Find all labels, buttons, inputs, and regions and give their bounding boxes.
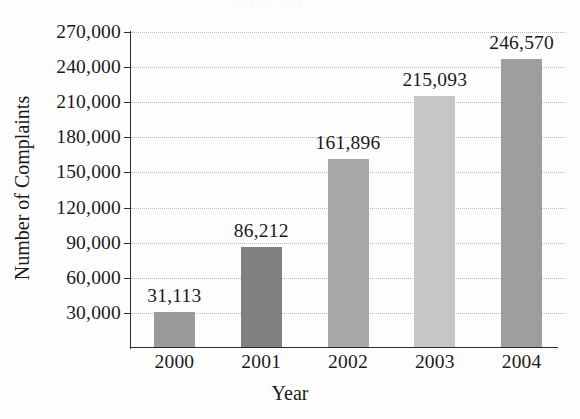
bar: [501, 59, 542, 348]
cropped-title-remnant: · · · · · · · ·: [230, 0, 430, 7]
y-axis-line: [130, 31, 131, 349]
bar: [154, 312, 195, 348]
bar-value-label: 86,212: [234, 221, 289, 241]
x-axis-title: Year: [0, 383, 580, 403]
gridline: [131, 102, 565, 103]
x-tick-label: 2000: [154, 352, 194, 372]
x-tick-label: 2003: [415, 352, 455, 372]
bar-value-label: 246,570: [489, 33, 554, 53]
bar: [414, 96, 455, 348]
plot-area: 31,11386,212161,896215,093246,570: [131, 32, 565, 348]
y-tick-label: 270,000: [3, 22, 121, 42]
x-tick-label: 2002: [328, 352, 368, 372]
bar-value-label: 31,113: [147, 286, 201, 306]
y-tick-label: 240,000: [3, 57, 121, 77]
y-axis-title: Number of Complaints: [12, 88, 32, 288]
x-tick-label: 2001: [241, 352, 281, 372]
chart-figure: · · · · · · · · 30,00060,00090,000120,00…: [0, 0, 580, 419]
x-tick-label: 2004: [502, 352, 542, 372]
bar: [328, 159, 369, 348]
bar: [241, 247, 282, 348]
y-tick-label: 30,000: [3, 303, 121, 323]
bar-value-label: 215,093: [402, 70, 467, 90]
x-axis-line: [130, 347, 558, 348]
bar-value-label: 161,896: [316, 133, 381, 153]
gridline: [131, 67, 565, 68]
